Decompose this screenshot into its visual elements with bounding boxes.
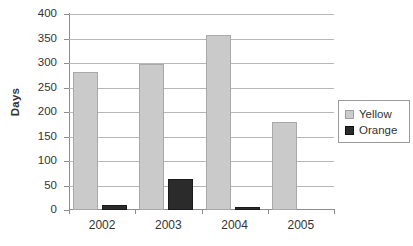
y-tick-label: 300 xyxy=(17,57,57,69)
bar-group xyxy=(202,14,268,210)
x-tick-mark xyxy=(69,209,70,214)
bar-yellow-2004 xyxy=(206,35,231,210)
x-tick-mark xyxy=(268,209,269,214)
bar-chart: Days 400350300250200150100500 2002200320… xyxy=(0,0,413,246)
x-tick-label: 2003 xyxy=(133,219,203,231)
y-tick-label: 350 xyxy=(17,33,57,45)
y-tick-label: 200 xyxy=(17,106,57,118)
bar-group xyxy=(268,14,334,210)
y-tick-label: 0 xyxy=(17,204,57,216)
x-tick-label: 2002 xyxy=(67,219,137,231)
bar-orange-2002 xyxy=(102,205,127,210)
bar-orange-2004 xyxy=(235,207,260,210)
x-tick-label: 2004 xyxy=(200,219,270,231)
x-tick-mark xyxy=(334,209,335,214)
y-tick-label: 150 xyxy=(17,131,57,143)
bar-yellow-2002 xyxy=(73,72,98,210)
legend-item-yellow: Yellow xyxy=(345,108,402,120)
plot-area xyxy=(69,14,334,210)
bar-orange-2003 xyxy=(168,179,193,210)
y-tick-label: 400 xyxy=(17,8,57,20)
bar-group xyxy=(69,14,135,210)
bar-yellow-2005 xyxy=(272,122,297,210)
legend-label-yellow: Yellow xyxy=(359,108,392,120)
x-tick-mark xyxy=(135,209,136,214)
y-tick-label: 100 xyxy=(17,155,57,167)
legend-swatch-yellow-icon xyxy=(345,110,354,119)
y-tick-label: 50 xyxy=(17,180,57,192)
legend-swatch-orange-icon xyxy=(345,126,354,135)
x-tick-label: 2005 xyxy=(266,219,336,231)
legend-item-orange: Orange xyxy=(345,124,402,136)
legend-label-orange: Orange xyxy=(359,124,397,136)
bar-yellow-2003 xyxy=(139,64,164,210)
bar-group xyxy=(135,14,201,210)
x-tick-mark xyxy=(202,209,203,214)
bars-layer xyxy=(69,14,334,210)
legend: Yellow Orange xyxy=(338,100,410,143)
y-tick-label: 250 xyxy=(17,82,57,94)
